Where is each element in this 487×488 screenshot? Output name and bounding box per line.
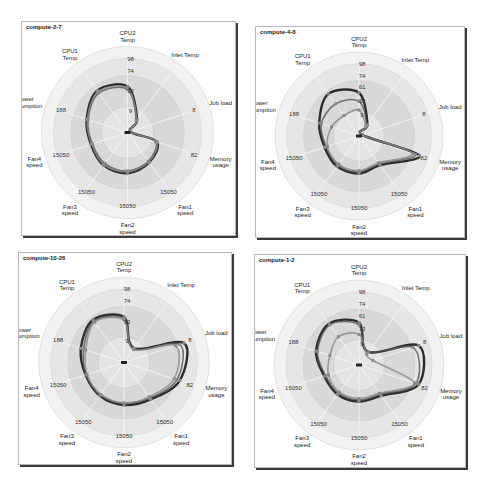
axis-label-mem: usage [442,165,459,171]
axis-label-cpu1: CPU1 [62,48,79,54]
axis-label-fan2: speed [116,458,132,464]
data-point [174,344,177,347]
center-marker [121,361,127,364]
data-point [414,153,417,156]
tick-label: 82 [421,155,428,161]
data-point [86,373,89,376]
axis-label-fan2: speed [351,230,367,236]
axis-label-fan1: speed [408,442,424,448]
tick-label: 33 [359,326,366,332]
axis-label-mem: usage [212,162,229,168]
tick-label: 188 [56,107,67,113]
axis-label-cpu2: CPU2 [119,30,136,36]
data-point [377,161,380,164]
axis-label-power: Power [256,100,267,106]
tick-label: 15050 [119,203,136,209]
axis-label-job: Job load [209,100,232,106]
axis-label-inlet: Inlet Temp [167,282,195,288]
data-point [358,169,361,172]
axis-label-job: Job load [439,104,462,110]
tick-label: 15050 [75,419,92,425]
tick-label: 15050 [156,419,173,425]
axis-label-fan3: speed [62,210,78,216]
tick-label: 98 [124,286,131,292]
data-point [411,152,414,155]
data-point [178,379,181,382]
axis-label-job: Job load [205,330,228,336]
axis-label-inlet: Inlet Temp [171,52,199,58]
tick-label: 98 [359,61,366,67]
axis-label-cpu1: CPU1 [59,279,76,285]
data-point [343,114,346,117]
data-point [135,118,138,121]
data-point [132,348,135,351]
data-point [337,335,340,338]
tick-label: 15050 [351,205,368,211]
data-point [371,359,374,362]
data-point [99,393,102,396]
data-point [358,333,361,336]
axis-label-fan4: Fan4 [25,385,39,391]
axis-label-power: Power [255,329,267,335]
axis-label-fan1: Fan1 [174,433,188,439]
axis-label-cpu1: CPU1 [294,282,311,288]
axis-label-fan2: Fan2 [121,222,135,228]
axis-label-cpu2: CPU2 [351,264,368,270]
axis-label-power: consumption [256,107,276,113]
data-point [316,350,319,353]
tick-label: 15050 [50,382,67,388]
center-marker [356,135,362,138]
data-point [178,343,181,346]
axis-label-inlet: Inlet Temp [402,285,430,291]
data-point [417,383,420,386]
panel-compute-1-2: compute-1-2 9336174988821505015050150501… [254,254,466,468]
data-point [327,92,330,95]
tick-label: 61 [359,84,366,90]
axis-label-cpu2: CPU2 [351,36,368,42]
tick-label: 61 [359,313,366,319]
axis-label-mem: Memory [439,159,461,165]
axis-label-fan3: speed [294,212,310,218]
tick-label: 188 [289,111,300,117]
data-point [123,401,126,404]
axis-label-cpu1: Temp [295,60,310,66]
axis-label-fan4: speed [259,394,275,400]
axis-label-fan2: Fan2 [352,453,366,459]
tick-label: 15050 [311,191,328,197]
axis-label-fan4: speed [26,162,42,168]
tick-label: 74 [359,301,366,307]
axis-label-fan1: Fan1 [409,435,423,441]
data-point [175,378,178,381]
axis-label-fan1: Fan1 [409,206,423,212]
axis-label-mem: Memory [206,385,228,391]
data-point [86,118,89,121]
data-point [324,374,327,377]
center-marker [356,364,362,367]
tick-label: 15050 [310,421,327,427]
axis-label-fan2: Fan2 [352,224,366,230]
data-point [330,126,333,129]
tick-label: 98 [127,56,134,62]
tick-label: 15050 [53,152,70,158]
axis-label-cpu1: Temp [60,285,75,291]
axis-label-mem: Memory [210,156,232,162]
axis-label-fan2: Fan2 [117,451,131,457]
data-point [328,323,331,326]
axis-label-fan3: speed [59,440,75,446]
data-point [147,395,150,398]
radar-chart: 93361749888215050150501505015050188CPU2T… [256,27,466,239]
axis-label-mem: Memory [440,388,462,394]
tick-label: 15050 [78,189,95,195]
tick-label: 82 [191,152,198,158]
axis-label-fan2: speed [119,229,135,235]
axis-label-mem: usage [208,392,225,398]
axis-label-power: Power [19,327,31,333]
tick-label: 82 [187,382,194,388]
center-marker [125,131,131,134]
axis-label-fan1: Fan1 [178,204,192,210]
axis-label-fan3: speed [294,442,310,448]
axis-label-cpu2: Temp [352,270,367,276]
axis-label-power: Power [22,96,34,102]
tick-label: 74 [124,298,131,304]
axis-label-fan4: speed [260,165,276,171]
